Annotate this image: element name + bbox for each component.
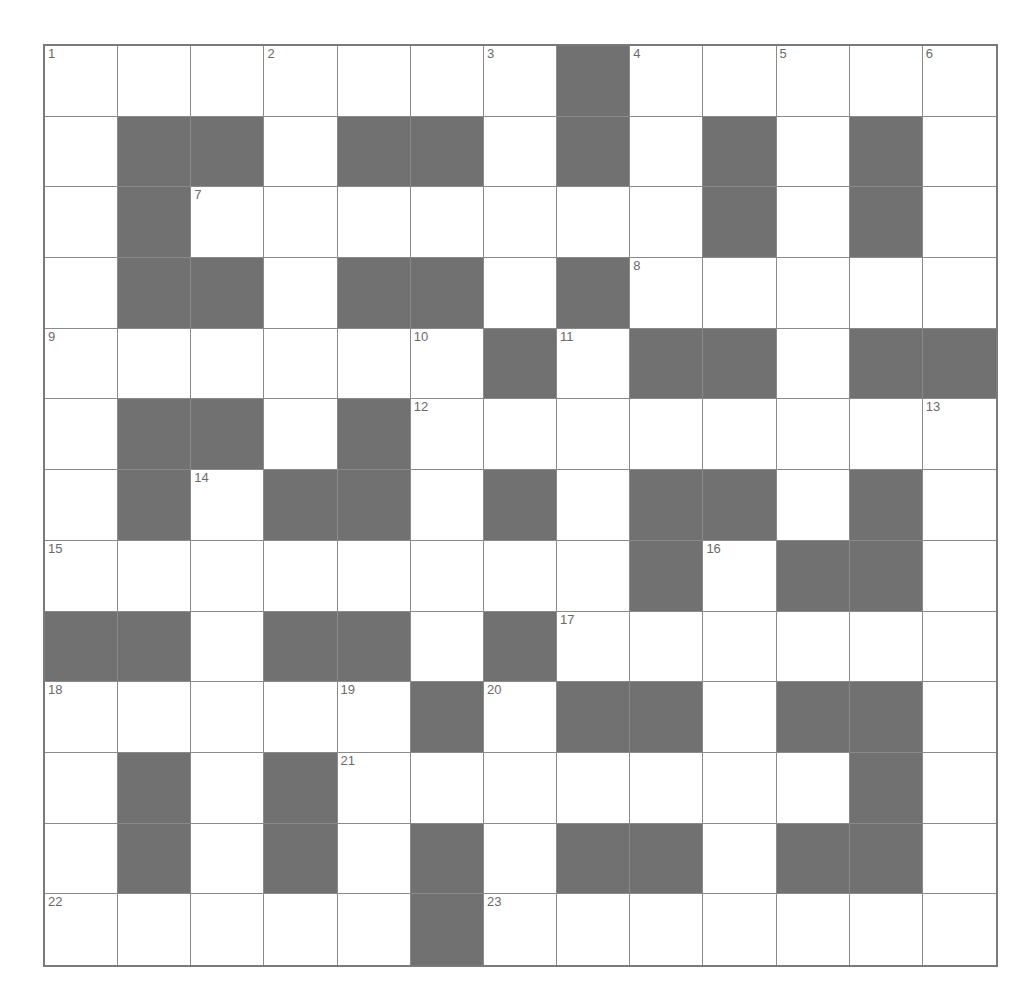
answer-cell[interactable] (191, 824, 264, 895)
answer-cell[interactable] (191, 682, 264, 753)
answer-cell[interactable] (411, 753, 484, 824)
answer-cell[interactable]: 1 (45, 46, 118, 117)
answer-cell[interactable]: 12 (411, 399, 484, 470)
answer-cell[interactable] (777, 258, 850, 329)
answer-cell[interactable] (557, 399, 630, 470)
answer-cell[interactable] (703, 753, 776, 824)
answer-cell[interactable] (338, 46, 411, 117)
answer-cell[interactable]: 3 (484, 46, 557, 117)
answer-cell[interactable] (850, 258, 923, 329)
answer-cell[interactable] (264, 682, 337, 753)
answer-cell[interactable] (777, 399, 850, 470)
answer-cell[interactable] (850, 46, 923, 117)
answer-cell[interactable] (557, 470, 630, 541)
answer-cell[interactable] (777, 753, 850, 824)
answer-cell[interactable] (923, 258, 996, 329)
answer-cell[interactable] (191, 894, 264, 965)
answer-cell[interactable] (411, 46, 484, 117)
answer-cell[interactable] (191, 753, 264, 824)
answer-cell[interactable] (191, 612, 264, 683)
answer-cell[interactable] (703, 894, 776, 965)
answer-cell[interactable]: 13 (923, 399, 996, 470)
answer-cell[interactable] (484, 117, 557, 188)
answer-cell[interactable] (45, 258, 118, 329)
answer-cell[interactable] (411, 541, 484, 612)
answer-cell[interactable]: 22 (45, 894, 118, 965)
answer-cell[interactable] (338, 541, 411, 612)
answer-cell[interactable] (411, 187, 484, 258)
answer-cell[interactable] (923, 753, 996, 824)
answer-cell[interactable] (703, 612, 776, 683)
answer-cell[interactable] (703, 46, 776, 117)
answer-cell[interactable] (850, 612, 923, 683)
answer-cell[interactable]: 4 (630, 46, 703, 117)
answer-cell[interactable] (630, 399, 703, 470)
answer-cell[interactable] (557, 894, 630, 965)
answer-cell[interactable] (850, 894, 923, 965)
answer-cell[interactable] (557, 541, 630, 612)
answer-cell[interactable] (484, 399, 557, 470)
answer-cell[interactable] (338, 187, 411, 258)
answer-cell[interactable]: 21 (338, 753, 411, 824)
answer-cell[interactable] (118, 894, 191, 965)
answer-cell[interactable] (118, 682, 191, 753)
answer-cell[interactable]: 14 (191, 470, 264, 541)
answer-cell[interactable]: 9 (45, 329, 118, 400)
answer-cell[interactable]: 8 (630, 258, 703, 329)
answer-cell[interactable] (630, 117, 703, 188)
answer-cell[interactable] (45, 824, 118, 895)
answer-cell[interactable]: 7 (191, 187, 264, 258)
answer-cell[interactable] (777, 470, 850, 541)
answer-cell[interactable] (777, 187, 850, 258)
answer-cell[interactable] (703, 682, 776, 753)
answer-cell[interactable] (630, 187, 703, 258)
answer-cell[interactable] (264, 894, 337, 965)
answer-cell[interactable] (411, 612, 484, 683)
answer-cell[interactable] (264, 541, 337, 612)
answer-cell[interactable] (923, 824, 996, 895)
answer-cell[interactable] (484, 824, 557, 895)
answer-cell[interactable] (264, 329, 337, 400)
answer-cell[interactable] (264, 258, 337, 329)
answer-cell[interactable] (411, 470, 484, 541)
answer-cell[interactable] (264, 117, 337, 188)
answer-cell[interactable] (191, 46, 264, 117)
answer-cell[interactable] (484, 541, 557, 612)
answer-cell[interactable] (45, 117, 118, 188)
answer-cell[interactable] (923, 612, 996, 683)
answer-cell[interactable] (45, 470, 118, 541)
answer-cell[interactable] (703, 258, 776, 329)
answer-cell[interactable]: 11 (557, 329, 630, 400)
answer-cell[interactable] (338, 329, 411, 400)
answer-cell[interactable] (45, 187, 118, 258)
answer-cell[interactable]: 20 (484, 682, 557, 753)
answer-cell[interactable] (703, 824, 776, 895)
answer-cell[interactable] (118, 46, 191, 117)
answer-cell[interactable]: 17 (557, 612, 630, 683)
answer-cell[interactable] (630, 894, 703, 965)
answer-cell[interactable] (45, 399, 118, 470)
answer-cell[interactable] (923, 470, 996, 541)
answer-cell[interactable]: 16 (703, 541, 776, 612)
answer-cell[interactable] (264, 187, 337, 258)
answer-cell[interactable] (118, 541, 191, 612)
answer-cell[interactable] (923, 894, 996, 965)
answer-cell[interactable] (484, 753, 557, 824)
answer-cell[interactable]: 15 (45, 541, 118, 612)
answer-cell[interactable] (703, 399, 776, 470)
answer-cell[interactable] (923, 187, 996, 258)
answer-cell[interactable] (630, 753, 703, 824)
answer-cell[interactable] (850, 399, 923, 470)
answer-cell[interactable] (191, 541, 264, 612)
answer-cell[interactable]: 18 (45, 682, 118, 753)
answer-cell[interactable] (484, 258, 557, 329)
answer-cell[interactable] (338, 894, 411, 965)
answer-cell[interactable]: 19 (338, 682, 411, 753)
answer-cell[interactable] (777, 612, 850, 683)
answer-cell[interactable] (777, 894, 850, 965)
answer-cell[interactable] (923, 541, 996, 612)
answer-cell[interactable]: 6 (923, 46, 996, 117)
answer-cell[interactable]: 10 (411, 329, 484, 400)
answer-cell[interactable] (45, 753, 118, 824)
answer-cell[interactable] (923, 117, 996, 188)
